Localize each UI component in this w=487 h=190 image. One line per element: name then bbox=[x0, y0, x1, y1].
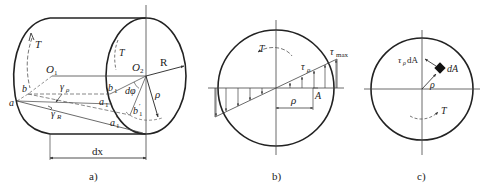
label-a: a bbox=[9, 97, 14, 108]
label-A: A bbox=[314, 90, 322, 101]
label-tau-rho-dA: τ bbox=[398, 55, 402, 65]
label-tau-max: τ bbox=[330, 46, 334, 57]
label-b1-sub: 1 bbox=[114, 87, 118, 95]
caption-b: b) bbox=[272, 170, 282, 183]
caption-a: a) bbox=[89, 170, 98, 183]
torque-arc-c bbox=[410, 112, 438, 119]
label-b1-prime-mark: ′ bbox=[139, 102, 141, 110]
torque-arc-right bbox=[115, 40, 118, 70]
label-a1: a bbox=[99, 96, 104, 107]
label-a1-prime: a bbox=[110, 117, 115, 128]
label-gamma-R: γ bbox=[51, 108, 56, 119]
label-dphi: dφ bbox=[125, 85, 136, 96]
label-T-c: T bbox=[441, 105, 448, 116]
label-a1-prime-sub: 1 bbox=[116, 122, 120, 130]
label-O1-sub: 1 bbox=[54, 69, 58, 77]
label-tau-max-sub: max bbox=[336, 51, 349, 59]
area-element-dA bbox=[434, 62, 445, 73]
label-gamma-rho-sub: ρ bbox=[65, 86, 70, 94]
label-tau-rho: τ bbox=[301, 61, 305, 72]
label-tau-rho-dA-sub: ρ bbox=[402, 60, 406, 66]
label-b: b bbox=[22, 83, 27, 94]
label-gamma-rho: γ bbox=[60, 81, 65, 92]
radius-O1-b bbox=[28, 76, 52, 94]
torque-arc-left bbox=[27, 38, 32, 88]
label-T-right: T bbox=[119, 47, 126, 58]
label-rho-c: ρ bbox=[429, 79, 435, 90]
label-b1: b bbox=[108, 82, 113, 93]
caption-c: c) bbox=[417, 170, 426, 183]
label-O2-sub: 2 bbox=[140, 67, 144, 75]
label-rho-a: ρ bbox=[154, 88, 160, 100]
label-a1-sub: 1 bbox=[105, 101, 109, 109]
label-R: R bbox=[160, 56, 168, 68]
label-dx: dx bbox=[92, 145, 104, 157]
panel-c-area-element: ρ dA τ ρ dA T c) bbox=[364, 30, 480, 183]
label-gamma-R-sub: R bbox=[56, 113, 62, 121]
radius-b-a bbox=[17, 94, 28, 101]
generator-a-a1p bbox=[17, 101, 143, 133]
label-O1: O bbox=[46, 63, 54, 75]
torsion-diagram-canvas: T T O 1 O 2 R ρ dφ b a b 1 a 1 bbox=[0, 0, 487, 190]
label-O2: O bbox=[132, 61, 140, 73]
label-tau-rho-sub: ρ bbox=[306, 66, 311, 74]
label-dA: dA bbox=[447, 63, 459, 74]
panel-a-cylinder-element: T T O 1 O 2 R ρ dφ b a b 1 a 1 bbox=[9, 5, 186, 183]
label-b1-prime-sub: 1 bbox=[139, 110, 143, 118]
shear-force-arrow bbox=[425, 59, 436, 66]
label-b1-prime: b bbox=[133, 105, 138, 116]
label-rho-b: ρ bbox=[290, 94, 296, 106]
label-T-left: T bbox=[35, 38, 42, 50]
label-tau-rho-dA-tail: dA bbox=[407, 55, 419, 65]
panel-b-shear-stress-distribution: T τ max τ ρ A ρ b) bbox=[208, 20, 349, 183]
